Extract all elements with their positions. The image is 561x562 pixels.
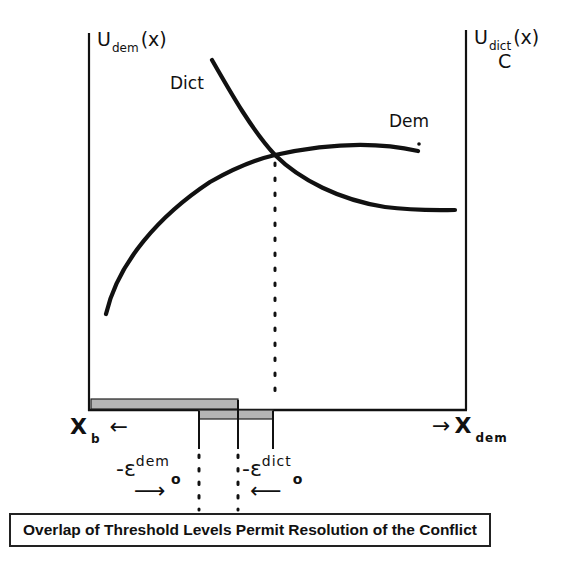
right-arrow-icon: → [432,413,450,438]
left-axis-label: Udem(x) [97,28,167,55]
right-axis-extra-label: C [498,50,511,72]
dem-threshold-arrow-icon: ⟶ [134,478,166,503]
dem-curve [106,145,418,314]
caption-box: Overlap of Threshold Levels Permit Resol… [9,513,491,547]
dem-threshold-sup: dem [136,453,170,469]
dict-threshold-arrow-icon: ⟵ [250,478,282,503]
x-left-label: Xb ← [70,414,128,446]
left-axis-label-suffix: (x) [141,28,167,50]
caption-text: Overlap of Threshold Levels Permit Resol… [23,521,477,539]
dict-curve [212,60,455,210]
right-axis-label-main: U [474,26,488,48]
left-axis-label-main: U [97,28,111,50]
utility-diagram: Udem(x) Udict(x) C Dict Dem Xb ← →Xdem -… [0,0,561,562]
dict-threshold-sup: dict [262,453,292,469]
dict-threshold-bar [199,410,273,419]
dem-curve-end-dot [417,142,421,146]
x-left-label-main: X [70,414,87,439]
dem-threshold-prefix: -ε [116,456,136,481]
x-right-label: →Xdem [432,413,508,445]
x-left-label-sub: b [91,432,101,446]
right-axis-label-suffix: (x) [513,26,539,48]
dict-curve-label: Dict [170,73,204,93]
dem-curve-label: Dem [389,111,429,131]
x-right-label-sub: dem [475,431,507,445]
right-axis-label: Udict(x) [474,26,539,53]
dem-threshold-bar [91,399,238,409]
x-right-label-main: X [454,413,471,438]
left-arrow-icon: ← [110,414,128,439]
left-axis-label-sub: dem [112,41,139,55]
dict-threshold-sub: o [293,471,303,487]
dem-threshold-sub: o [171,471,181,487]
